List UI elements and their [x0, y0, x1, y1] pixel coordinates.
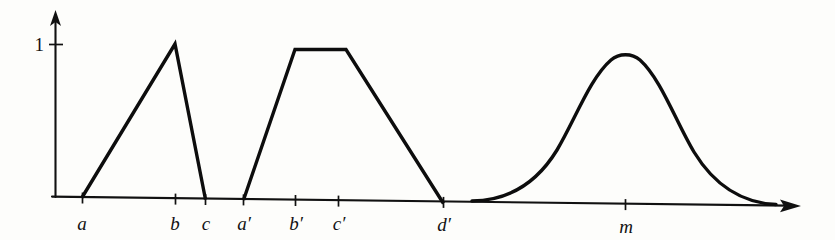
trapezoidal-membership-curve — [244, 50, 444, 204]
figure-canvas — [0, 0, 835, 240]
x-axis-label-d-prime: d′ — [437, 215, 451, 234]
x-axis-label-m: m — [619, 217, 633, 236]
x-axis-label-c: c — [202, 214, 210, 233]
x-axis-label-a: a — [77, 214, 87, 233]
membership-function-figure: 1 a b c a′ b′ c′ d′ m — [0, 0, 835, 240]
y-axis-label-1: 1 — [35, 35, 45, 54]
gaussian-membership-curve — [472, 55, 776, 205]
x-axis-label-a-prime: a′ — [237, 214, 251, 233]
x-axis-line — [52, 197, 788, 206]
x-axis-label-b: b — [170, 214, 180, 233]
x-axis-label-c-prime: c′ — [333, 214, 346, 233]
x-axis-label-b-prime: b′ — [289, 214, 303, 233]
triangular-membership-curve — [82, 44, 206, 200]
